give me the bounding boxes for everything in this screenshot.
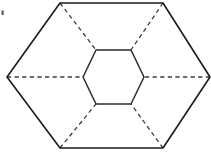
- scan-speck: [2, 11, 4, 16]
- hexagonal-prism-diagram: [0, 0, 211, 153]
- figure-root: [0, 0, 211, 153]
